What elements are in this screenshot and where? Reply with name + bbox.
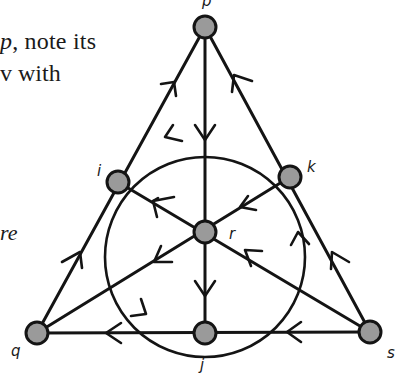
- arrow-circle-right: [291, 232, 309, 245]
- label-r: r: [229, 225, 236, 243]
- node-s: [359, 321, 381, 343]
- label-i: i: [97, 162, 102, 180]
- node-j: [194, 322, 216, 344]
- node-k: [279, 166, 301, 188]
- node-r: [194, 221, 216, 243]
- label-k: k: [307, 158, 317, 176]
- label-s: s: [387, 344, 395, 362]
- arrow-circle-top: [165, 125, 182, 141]
- node-i: [107, 171, 129, 193]
- label-q: q: [11, 342, 21, 360]
- node-q: [26, 322, 48, 344]
- label-j: j: [198, 356, 205, 374]
- label-p: p: [201, 0, 212, 10]
- fano-graph-diagram: p i k r q j s: [0, 0, 401, 382]
- node-p: [194, 16, 216, 38]
- arrow-q-to-i: [62, 252, 82, 268]
- arrow-circle-left: [131, 299, 146, 316]
